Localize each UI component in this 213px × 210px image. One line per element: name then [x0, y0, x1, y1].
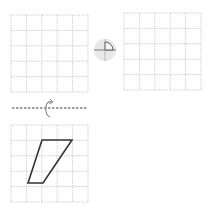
trapezoid-shape [28, 140, 72, 183]
top-right-grid [124, 13, 201, 90]
diagram-canvas [0, 0, 213, 210]
top-left-grid [11, 15, 88, 92]
bottom-grid [11, 125, 88, 202]
rotation-icon [94, 39, 116, 61]
